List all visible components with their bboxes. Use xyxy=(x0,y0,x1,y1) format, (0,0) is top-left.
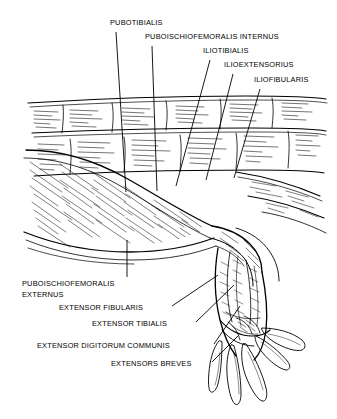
label-puboischiofemoralis-internus: PUBOISCHIOFEMORALIS INTERNUS xyxy=(145,32,279,42)
right-lower-band xyxy=(236,172,326,233)
label-ilioextensorius: ILIOEXTENSORIUS xyxy=(224,60,294,70)
label-iliofibularis: ILIOFIBULARIS xyxy=(254,75,309,85)
upper-band-hatching xyxy=(34,103,312,128)
label-extensors-breves: EXTENSORS BREVES xyxy=(111,359,192,369)
leader-ilioextensorius xyxy=(206,74,233,180)
leader-extensors-breves xyxy=(212,336,238,362)
leader-puboischiofemoralis-internus xyxy=(152,46,157,191)
label-extensor-fibularis: EXTENSOR FIBULARIS xyxy=(59,303,143,313)
label-puboischiofemoralis-externus-line1: PUBOISCHIOFEMORALIS xyxy=(22,279,115,289)
mid-band-hatching xyxy=(38,135,320,170)
shank-hatching xyxy=(220,260,260,316)
label-puboischiofemoralis-externus-line2: EXTERNUS xyxy=(22,290,64,300)
label-extensor-digitorum-communis: EXTENSOR DIGITORUM COMMUNIS xyxy=(37,341,170,351)
leader-extensor-fibularis xyxy=(172,275,218,306)
label-iliotibialis: ILIOTIBIALIS xyxy=(203,46,249,56)
shank xyxy=(215,248,267,360)
leader-iliotibialis xyxy=(176,60,210,186)
upper-muscle-bands xyxy=(28,96,327,176)
label-pubotibialis: PUBOTIBIALIS xyxy=(110,18,163,28)
leader-iliofibularis xyxy=(234,89,260,178)
figure-canvas: PUBOTIBIALIS PUBOISCHIOFEMORALIS INTERNU… xyxy=(0,0,337,419)
knee-joint xyxy=(210,226,279,286)
digits xyxy=(209,328,306,405)
label-extensor-tibialis: EXTENSOR TIBIALIS xyxy=(92,319,167,329)
